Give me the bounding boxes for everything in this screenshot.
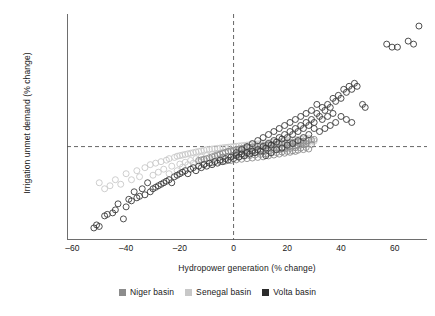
x-tick-label: 20 xyxy=(267,244,307,253)
x-tick-label: –20 xyxy=(160,244,200,253)
x-tick-label: 40 xyxy=(321,244,361,253)
data-point xyxy=(145,180,151,186)
data-point xyxy=(411,41,417,47)
y-axis-title: Irrigation unmet demand (% change) xyxy=(22,38,32,208)
data-point xyxy=(330,110,336,116)
data-point xyxy=(112,177,118,183)
x-tick-label: –60 xyxy=(52,244,92,253)
data-point xyxy=(123,171,129,177)
data-point xyxy=(314,101,320,107)
plot-area xyxy=(67,14,427,240)
legend-label: Senegal basin xyxy=(196,288,251,297)
x-tick-label: 60 xyxy=(375,244,415,253)
legend-label: Niger basin xyxy=(130,288,174,297)
legend-item-volta-basin[interactable]: Volta basin xyxy=(262,288,316,297)
data-point xyxy=(169,163,175,169)
x-axis-title: Hydropower generation (% change) xyxy=(67,263,427,273)
data-point xyxy=(120,216,126,222)
data-point xyxy=(96,180,102,186)
data-point xyxy=(131,189,137,195)
data-point xyxy=(118,181,124,187)
x-tick-label: 0 xyxy=(214,244,254,253)
data-point xyxy=(137,174,143,180)
data-point xyxy=(123,204,129,210)
data-point xyxy=(128,177,134,183)
legend-label: Volta basin xyxy=(273,288,316,297)
legend-item-senegal-basin[interactable]: Senegal basin xyxy=(185,288,251,297)
data-point xyxy=(155,169,161,175)
data-point xyxy=(338,113,344,119)
data-point xyxy=(107,183,113,189)
data-point xyxy=(115,201,121,207)
legend-swatch-icon xyxy=(119,289,126,296)
series-volta-basin xyxy=(91,23,422,231)
data-point xyxy=(317,129,323,135)
data-point xyxy=(139,186,145,192)
data-point xyxy=(134,168,140,174)
data-point xyxy=(416,23,422,29)
legend-swatch-icon xyxy=(185,289,192,296)
scatter-chart-figure: Irrigation unmet demand (% change) Hydro… xyxy=(0,0,435,316)
scatter-canvas xyxy=(67,14,427,240)
chart-legend: Niger basinSenegal basinVolta basin xyxy=(0,288,435,297)
legend-item-niger-basin[interactable]: Niger basin xyxy=(119,288,174,297)
x-tick-label: –40 xyxy=(106,244,146,253)
legend-swatch-icon xyxy=(262,289,269,296)
